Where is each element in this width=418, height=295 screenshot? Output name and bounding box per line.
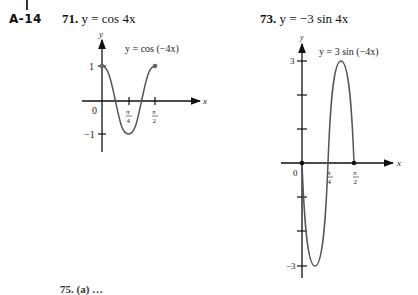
graph-71-start-dot (100, 64, 105, 69)
graph-73-start-dot (300, 161, 305, 166)
footer-partial-text: 75. (a) … (60, 283, 103, 295)
graph-71-y-label: y (98, 29, 103, 39)
graph-71-label: y = cos (−4x) (125, 43, 179, 55)
graph-73-origin: 0 (293, 168, 298, 178)
graph-73-ytick-neg3: −3 (286, 261, 296, 271)
graph-73-y-label: y (299, 33, 304, 42)
graph-73-xtick-pi4-den: 4 (328, 178, 332, 186)
graph-73-ytick-3: 3 (290, 56, 295, 66)
graph-71-xtick-pi2-den: 2 (153, 117, 157, 125)
graph-73-end-dot (352, 161, 357, 166)
graph-71-xtick-pi2-num: π (152, 108, 156, 116)
graph-71-xtick-pi4-den: 4 (127, 117, 131, 125)
graph-71-xtick-pi4-num: π (126, 108, 130, 116)
graph-71-ytick-neg1: −1 (84, 129, 95, 140)
graph-73: y x 3 −3 0 π 4 π 2 y = 3 sin (−4x) (281, 33, 401, 278)
graph-73-label: y = 3 sin (−4x) (319, 46, 379, 58)
graph-71: y x 1 −1 0 π 4 π 2 y = cos (−4x) (82, 29, 207, 152)
graph-71-end-dot (153, 64, 158, 69)
graph-71-ytick-1: 1 (89, 61, 94, 72)
graph-73-xtick-pi2-den: 2 (354, 178, 358, 186)
graph-71-origin: 0 (92, 105, 97, 116)
graph-73-x-label: x (396, 158, 401, 168)
graph-73-xtick-pi2-num: π (353, 169, 357, 177)
graph-71-x-label: x (202, 96, 207, 106)
